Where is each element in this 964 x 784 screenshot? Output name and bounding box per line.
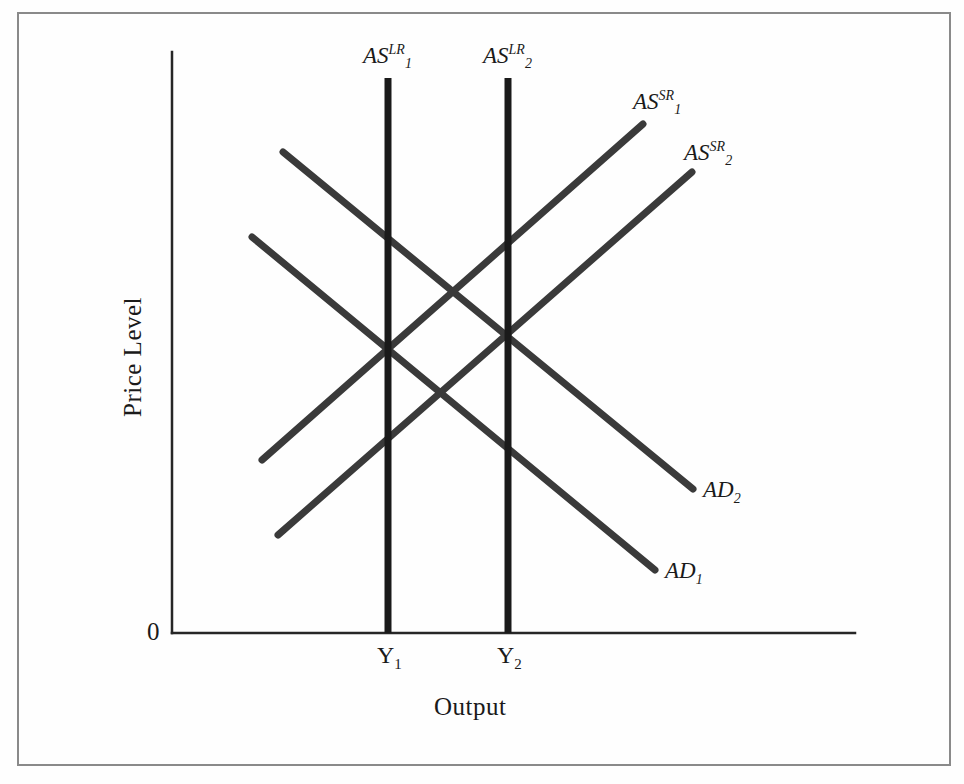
curve-label-as-lr-1-sup: LR <box>389 42 405 57</box>
x-axis-title: Output <box>434 694 506 719</box>
curve-label-as-sr-2-sub: 2 <box>725 153 732 168</box>
curve-label-as-lr-2-base: AS <box>483 43 509 68</box>
curve-label-as-lr-2: ASLR2 <box>483 43 532 71</box>
x-tick-label-y1-base: Y <box>377 642 394 668</box>
origin-label: 0 <box>147 619 160 644</box>
curve-as-sr-2 <box>278 172 692 535</box>
curve-label-ad-1-sub: 1 <box>696 572 703 587</box>
curve-label-as-lr-2-sub: 2 <box>525 56 532 71</box>
curve-label-as-sr-1: ASSR1 <box>633 89 681 117</box>
curve-label-as-sr-2: ASSR2 <box>684 140 732 168</box>
x-tick-label-y1: Y1 <box>377 643 402 672</box>
curve-label-as-lr-1: ASLR1 <box>363 43 412 71</box>
ad-as-diagram: 0 Price Level Output Y1 Y2 ASLR1 ASLR2 A… <box>0 0 964 784</box>
x-tick-label-y1-sub: 1 <box>394 656 402 672</box>
curve-label-as-lr-1-sub: 1 <box>405 56 412 71</box>
x-tick-label-y2-base: Y <box>497 642 514 668</box>
x-tick-label-y2-sub: 2 <box>514 656 522 672</box>
curve-label-as-sr-2-sup: SR <box>710 139 726 154</box>
curve-label-ad-1-base: AD <box>665 558 696 583</box>
curve-ad-2 <box>283 152 693 489</box>
curve-label-ad-2-sub: 2 <box>734 491 741 506</box>
curve-label-as-lr-1-base: AS <box>363 43 389 68</box>
x-tick-label-y2: Y2 <box>497 643 522 672</box>
curve-label-as-sr-2-base: AS <box>684 140 710 165</box>
curve-label-ad-2: AD2 <box>703 478 741 506</box>
curve-label-as-sr-1-base: AS <box>633 89 659 114</box>
curve-label-as-lr-2-sup: LR <box>509 42 525 57</box>
y-axis-title: Price Level <box>120 297 145 417</box>
figure-border <box>18 13 950 765</box>
curve-label-ad-2-base: AD <box>703 477 734 502</box>
curve-label-ad-1: AD1 <box>665 559 703 587</box>
curve-label-as-sr-1-sup: SR <box>659 88 675 103</box>
curve-label-as-sr-1-sub: 1 <box>674 102 681 117</box>
